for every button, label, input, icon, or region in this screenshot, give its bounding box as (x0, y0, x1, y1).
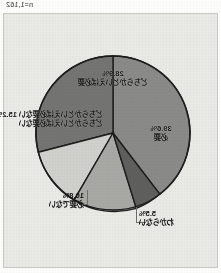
pie-callout-name: わからない (139, 218, 195, 227)
pie-callout-pct: 10.8% (49, 191, 84, 200)
leader-line-hitsuyou-denai-vertical (87, 190, 88, 205)
pie-callout-hitsuyou-denai: 10.8% 必要でない (49, 191, 84, 209)
pie-label-hitsuyou: 39.6% 必要 (134, 124, 188, 142)
pie-callout-wakaranai-name: わからない (139, 218, 195, 227)
chart-page: n=1,162 (0, 0, 221, 273)
pie-label-pct: 39.6% (134, 124, 188, 133)
pie-label-name: どちらかといえば必要 (77, 78, 149, 87)
pie-label-combined: どちらかといえば必要ない 15.2% (27, 110, 103, 119)
pie-label-name: どちらかといえば必要ない (27, 119, 103, 128)
pie-callout-name: 必要でない (49, 200, 84, 209)
pie-label-dochiraka-hitsuyounai: どちらかといえば必要ない 15.2% どちらかといえば必要ない (27, 110, 103, 128)
mirrored-scan-container: n=1,162 (0, 0, 221, 273)
pie-label-name: 必要 (134, 133, 188, 142)
pie-label-pct: 28.9% (77, 69, 149, 78)
pie-callout-pct: 5.5% (139, 209, 177, 218)
pie-label-dochiraka-hitsuyou: 28.9% どちらかといえば必要 (77, 69, 149, 87)
pie-chart: 28.9% どちらかといえば必要 どちらかといえば必要ない 15.2% どちらか… (0, 0, 221, 273)
pie-callout-wakaranai: 5.5% (139, 209, 177, 218)
leader-line-wakaranai-vertical (136, 207, 137, 223)
